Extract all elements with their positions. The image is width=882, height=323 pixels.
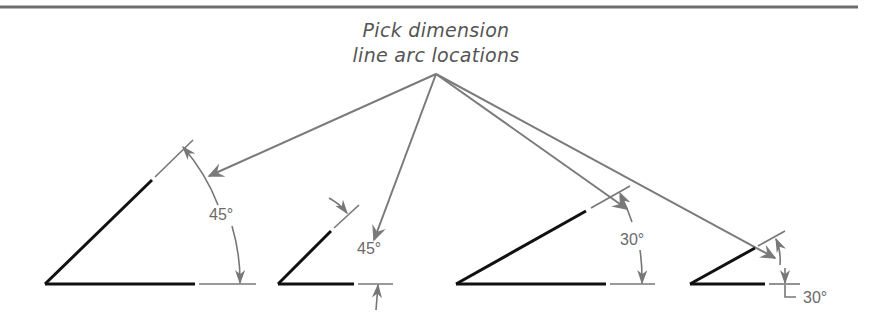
dimension-diagram: Pick dimension line arc locations 45° 45…: [0, 0, 882, 323]
figure-4-angle-label: 30°: [803, 289, 827, 307]
callout-line-1: Pick dimension: [300, 18, 572, 43]
callout-text: Pick dimension line arc locations: [300, 18, 572, 68]
figure-2-angle-label: 45°: [357, 240, 381, 258]
figure-3-angle-label: 30°: [620, 231, 644, 249]
leader-lines: [209, 74, 775, 258]
callout-line-2: line arc locations: [300, 43, 572, 68]
figure-1-angle-label: 45°: [209, 206, 233, 224]
